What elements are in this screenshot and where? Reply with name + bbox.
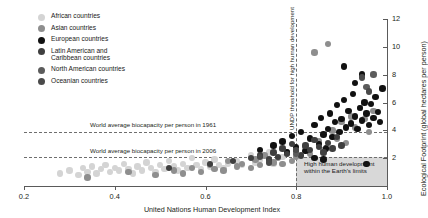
scatter-point	[345, 108, 351, 114]
scatter-point	[207, 161, 213, 167]
x-axis-tick-label: 0.6	[192, 192, 220, 201]
x-axis-title: United Nations Human Development Index	[62, 205, 362, 214]
scatter-point	[338, 142, 344, 148]
x-axis-tick	[24, 186, 25, 190]
scatter-point	[102, 162, 108, 168]
scatter-point	[359, 74, 365, 80]
scatter-point	[311, 137, 317, 143]
y-axis-tick-label: 6	[392, 98, 396, 107]
scatter-point	[377, 119, 383, 125]
scatter-point	[211, 166, 217, 172]
scatter-point	[320, 149, 326, 155]
scatter-point	[298, 129, 304, 135]
scatter-point	[332, 119, 338, 125]
scatter-point	[350, 91, 356, 97]
y-axis-tick-label: 8	[392, 70, 396, 79]
scatter-point	[230, 158, 236, 164]
undp-threshold-label: UNDP threshold for high human developmen…	[288, 7, 295, 130]
y-axis-tick-label: 12	[392, 14, 400, 23]
x-axis-tick-label: 1.0	[373, 192, 401, 201]
scatter-point	[311, 122, 317, 128]
scatter-point	[248, 165, 254, 171]
scatter-point	[363, 110, 369, 116]
scatter-point	[66, 167, 72, 173]
scatter-point	[366, 122, 372, 128]
x-axis-tick	[206, 186, 207, 190]
scatter-point	[372, 94, 378, 100]
scatter-point	[329, 145, 335, 151]
y-axis-tick	[383, 19, 388, 20]
scatter-point	[352, 113, 358, 119]
scatter-point	[354, 126, 360, 132]
x-axis-tick	[296, 186, 297, 190]
scatter-point	[57, 170, 63, 176]
scatter-point	[320, 131, 326, 137]
scatter-point	[257, 162, 263, 168]
y-axis-tick	[383, 103, 388, 104]
scatter-point	[379, 85, 385, 91]
scatter-point	[375, 109, 381, 115]
x-axis-tick-label: 0.2	[10, 192, 38, 201]
y-axis-tick	[383, 47, 388, 48]
scatter-point	[307, 147, 313, 153]
scatter-point	[352, 80, 358, 86]
scatter-point	[370, 71, 376, 77]
scatter-point	[198, 169, 204, 175]
y-axis-title: Ecological Footprint (global hectares pe…	[419, 41, 428, 196]
scatter-point	[311, 49, 317, 55]
x-axis-tick	[115, 186, 116, 190]
scatter-point	[327, 110, 333, 116]
y-axis-tick	[383, 75, 388, 76]
scatter-point	[366, 129, 372, 135]
scatter-point	[279, 138, 285, 144]
scatter-point	[361, 99, 367, 105]
scatter-point	[139, 167, 145, 173]
y-axis-tick	[383, 130, 388, 131]
biocapacity-1961-label: World average biocapacity per person in …	[88, 121, 218, 128]
y-axis-tick-label: 4	[392, 125, 396, 134]
scatter-point	[341, 97, 347, 103]
scatter-point	[189, 155, 195, 161]
reference-line-vertical	[296, 19, 297, 186]
y-axis-tick-label: 2	[392, 153, 396, 162]
scatter-point	[289, 133, 295, 139]
scatter-point	[125, 169, 131, 175]
scatter-point	[89, 163, 95, 169]
scatter-point	[366, 88, 372, 94]
scatter-point	[357, 105, 363, 111]
scatter-point	[239, 161, 245, 167]
scatter-point	[325, 41, 331, 47]
scatter-point	[116, 167, 122, 173]
scatter-point	[348, 120, 354, 126]
x-axis-tick-label: 0.8	[282, 192, 310, 201]
scatter-point	[189, 165, 195, 171]
scatter-point	[266, 159, 272, 165]
scatter-point	[220, 167, 226, 173]
scatter-point	[359, 117, 365, 123]
x-axis-tick	[387, 186, 388, 190]
x-axis-tick-label: 0.4	[101, 192, 129, 201]
y-axis-tick-label: 10	[392, 42, 400, 51]
scatter-point	[334, 102, 340, 108]
biocapacity-2006-label: World average biocapacity per person in …	[88, 147, 218, 154]
scatter-point	[368, 101, 374, 107]
reference-line-horizontal	[24, 157, 387, 158]
scatter-point	[279, 161, 285, 167]
scatter-point	[75, 172, 81, 178]
scatter-point	[370, 115, 376, 121]
scatter-point	[341, 63, 347, 69]
scatter-point	[180, 170, 186, 176]
scatter-point	[152, 172, 158, 178]
scatter-point	[257, 154, 263, 160]
scatter-point	[270, 142, 276, 148]
scatter-point	[84, 174, 90, 180]
y-axis-tick	[383, 158, 388, 159]
scatter-point	[318, 115, 324, 121]
sustainable-region-label: High human development within the Earth'…	[304, 160, 375, 175]
